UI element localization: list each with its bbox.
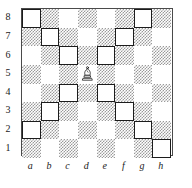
board-square-d7[interactable] [78,28,97,47]
board-square-g5[interactable] [134,65,153,84]
board-square-h7[interactable] [152,28,171,47]
file-label-f: f [114,160,133,172]
board-square-h8[interactable] [152,9,171,28]
board-square-e7[interactable] [97,28,116,47]
board-square-e3[interactable] [97,102,116,121]
board-square-e6[interactable] [97,46,116,65]
rank-label-8: 8 [0,12,16,22]
board-square-c6[interactable] [59,46,78,65]
board-square-g4[interactable] [134,84,153,103]
board-square-a6[interactable] [22,46,41,65]
board-square-h3[interactable] [152,102,171,121]
board-square-a4[interactable] [22,84,41,103]
file-label-a: a [21,160,40,172]
board-square-b1[interactable] [41,139,60,158]
rank-label-4: 4 [0,87,16,97]
board-square-b8[interactable] [41,9,60,28]
board-square-c5[interactable] [59,65,78,84]
board-square-g3[interactable] [134,102,153,121]
board-square-f2[interactable] [115,121,134,140]
board-square-b6[interactable] [41,46,60,65]
board-square-g7[interactable] [134,28,153,47]
board-square-c1[interactable] [59,139,78,158]
board-square-c8[interactable] [59,9,78,28]
board-square-e4[interactable] [97,84,116,103]
board-square-b3[interactable] [41,102,60,121]
board-square-b7[interactable] [41,28,60,47]
board-squares [22,9,172,155]
board-square-f1[interactable] [115,139,134,158]
board-square-f4[interactable] [115,84,134,103]
board-square-d3[interactable] [78,102,97,121]
board-square-a3[interactable] [22,102,41,121]
board-square-g8[interactable] [134,9,153,28]
board-square-d4[interactable] [78,84,97,103]
board-square-c7[interactable] [59,28,78,47]
board-square-a8[interactable] [22,9,41,28]
board-square-g6[interactable] [134,46,153,65]
board-square-a1[interactable] [22,139,41,158]
board-square-h2[interactable] [152,121,171,140]
rank-label-6: 6 [0,50,16,60]
file-label-g: g [133,160,152,172]
file-label-e: e [95,160,114,172]
chess-board[interactable] [21,8,173,156]
board-square-f3[interactable] [115,102,134,121]
board-square-d5[interactable] [78,65,97,84]
chess-diagram: 87654321 abcdefgh [0,0,192,188]
board-square-g2[interactable] [134,121,153,140]
board-square-a7[interactable] [22,28,41,47]
rank-label-axis: 87654321 [0,8,20,156]
board-square-b5[interactable] [41,65,60,84]
rank-label-3: 3 [0,105,16,115]
board-square-f8[interactable] [115,9,134,28]
board-square-c3[interactable] [59,102,78,121]
rank-label-5: 5 [0,68,16,78]
board-square-e5[interactable] [97,65,116,84]
board-square-f7[interactable] [115,28,134,47]
file-label-c: c [58,160,77,172]
board-square-h1[interactable] [152,139,171,158]
board-square-d1[interactable] [78,139,97,158]
board-square-e8[interactable] [97,9,116,28]
board-square-h5[interactable] [152,65,171,84]
file-label-b: b [39,160,58,172]
file-label-d: d [77,160,96,172]
board-square-c4[interactable] [59,84,78,103]
board-square-e2[interactable] [97,121,116,140]
board-square-h4[interactable] [152,84,171,103]
file-label-axis: abcdefgh [21,160,173,176]
board-square-d2[interactable] [78,121,97,140]
board-square-d8[interactable] [78,9,97,28]
board-square-b4[interactable] [41,84,60,103]
board-square-g1[interactable] [134,139,153,158]
board-square-d6[interactable] [78,46,97,65]
rank-label-2: 2 [0,124,16,134]
board-square-a5[interactable] [22,65,41,84]
board-square-f5[interactable] [115,65,134,84]
rank-label-7: 7 [0,31,16,41]
board-square-f6[interactable] [115,46,134,65]
board-square-a2[interactable] [22,121,41,140]
board-square-h6[interactable] [152,46,171,65]
board-square-e1[interactable] [97,139,116,158]
board-square-c2[interactable] [59,121,78,140]
file-label-h: h [151,160,170,172]
board-square-b2[interactable] [41,121,60,140]
rank-label-1: 1 [0,143,16,153]
